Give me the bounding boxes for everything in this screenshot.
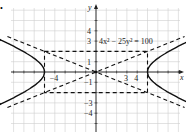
x-tick-label: 3 <box>124 74 128 83</box>
x-tick-label: −4 <box>50 74 59 83</box>
y-tick-label: 3 <box>87 37 91 46</box>
origin-point <box>95 71 98 74</box>
y-tick-label: 4 <box>87 27 91 36</box>
hyperbola-chart: yx431−1−3−4−4344x² − 25y² = 100 <box>0 0 186 136</box>
y-axis-label: y <box>87 3 92 12</box>
y-axis-arrow-icon <box>94 4 98 9</box>
y-tick-label: −4 <box>84 109 93 118</box>
y-tick-label: −1 <box>84 78 93 87</box>
y-tick-label: −3 <box>84 99 93 108</box>
equation-label: 4x² − 25y² = 100 <box>99 37 153 46</box>
y-tick-label: 1 <box>87 58 91 67</box>
x-tick-label: 4 <box>134 74 138 83</box>
x-axis-label: x <box>179 73 184 82</box>
